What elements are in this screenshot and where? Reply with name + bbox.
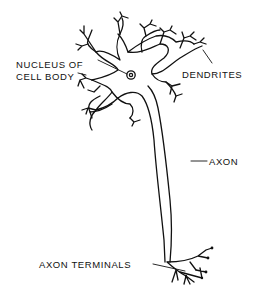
- terminals-leader: [153, 264, 185, 271]
- neuron-drawing: [0, 0, 260, 289]
- nucleus-outer: [127, 71, 135, 79]
- neuron-diagram: NUCLEUS OF CELL BODY DENDRITES AXON AXON…: [0, 0, 260, 289]
- dendrites-leader: [203, 50, 212, 63]
- label-nucleus-of: NUCLEUS OF: [16, 59, 83, 70]
- nucleus-leader: [98, 60, 127, 74]
- label-axon: AXON: [209, 156, 238, 167]
- nucleus-inner: [129, 73, 132, 76]
- label-dendrites: DENDRITES: [182, 69, 242, 80]
- axon-terminals: [167, 248, 212, 284]
- label-axon-terminals: AXON TERMINALS: [39, 259, 131, 270]
- label-cell-body: CELL BODY: [16, 71, 74, 82]
